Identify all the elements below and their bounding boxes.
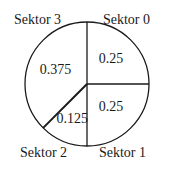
value-label-0: 0.25 xyxy=(99,51,124,66)
sector-label-2: Sektor 2 xyxy=(20,145,67,160)
sector-label-3: Sektor 3 xyxy=(14,12,61,27)
sector-label-1: Sektor 1 xyxy=(99,145,146,160)
value-label-3: 0.375 xyxy=(40,62,72,77)
pie-chart: Sektor 0Sektor 1Sektor 2Sektor 3 0.250.2… xyxy=(0,0,172,170)
value-label-2: 0.125 xyxy=(57,111,89,126)
value-label-1: 0.25 xyxy=(99,99,124,114)
sector-label-0: Sektor 0 xyxy=(103,12,150,27)
